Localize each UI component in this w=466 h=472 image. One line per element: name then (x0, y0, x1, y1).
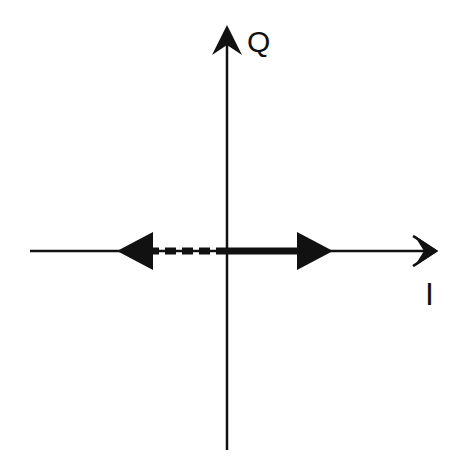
iq-diagram (0, 0, 466, 472)
positive-i-vector-arrowhead-icon (297, 232, 333, 270)
i-axis-label: I (425, 278, 434, 310)
q-axis-label: Q (247, 27, 270, 57)
negative-i-vector-arrowhead-icon (117, 232, 153, 270)
